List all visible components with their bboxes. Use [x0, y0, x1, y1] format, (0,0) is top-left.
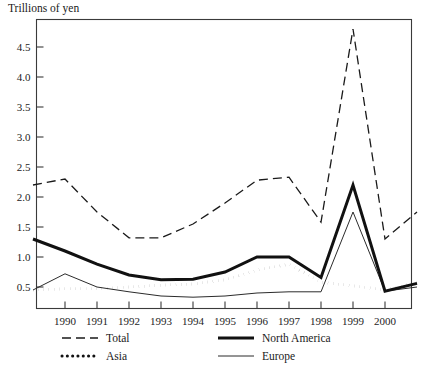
y-axis-labels: 0.51.01.52.02.53.03.54.04.5: [17, 41, 31, 293]
y-tick-label: 1.5: [17, 221, 31, 233]
legend-label-asia: Asia: [106, 350, 127, 362]
x-tick-label: 1994: [182, 315, 205, 327]
x-tick-label: 1992: [118, 315, 140, 327]
legend-label-total: Total: [106, 332, 129, 344]
y-tick-label: 1.0: [17, 251, 31, 263]
y-tick-label: 4.0: [17, 71, 31, 83]
y-axis-ticks: [37, 47, 44, 287]
x-tick-label: 1999: [342, 315, 365, 327]
x-tick-label: 1997: [278, 315, 301, 327]
data-series-group: [33, 29, 417, 297]
series-line-europe: [33, 212, 417, 297]
x-axis-labels: 1990199119921993199419951996199719981999…: [54, 315, 397, 327]
legend-item-north-america: North America: [218, 332, 331, 344]
x-axis-ticks: [65, 302, 385, 309]
y-tick-label: 2.5: [17, 161, 31, 173]
x-tick-label: 1991: [86, 315, 108, 327]
series-line-north-america: [33, 185, 417, 291]
chart-unit-title: Trillions of yen: [8, 2, 79, 15]
legend-item-asia: Asia: [62, 350, 127, 362]
x-tick-label: 2000: [374, 315, 397, 327]
x-tick-label: 1998: [310, 315, 333, 327]
x-tick-label: 1993: [150, 315, 173, 327]
legend-item-europe: Europe: [218, 350, 295, 363]
y-tick-label: 0.5: [17, 281, 31, 293]
y-tick-label: 2.0: [17, 191, 31, 203]
x-tick-label: 1995: [214, 315, 237, 327]
legend-label-europe: Europe: [262, 350, 295, 363]
y-tick-label: 3.5: [17, 101, 31, 113]
y-tick-label: 4.5: [17, 41, 31, 53]
chart-container: Trillions of yen 0.51.01.52.02.53.03.54.…: [0, 0, 425, 370]
chart-legend: TotalNorth AmericaAsiaEurope: [62, 332, 331, 363]
plot-frame: [37, 20, 412, 309]
legend-item-total: Total: [62, 332, 129, 344]
x-tick-label: 1996: [246, 315, 269, 327]
legend-label-north-america: North America: [262, 332, 331, 344]
line-chart: Trillions of yen 0.51.01.52.02.53.03.54.…: [0, 0, 425, 370]
series-line-asia: [33, 264, 417, 290]
x-tick-label: 1990: [54, 315, 77, 327]
y-tick-label: 3.0: [17, 131, 31, 143]
